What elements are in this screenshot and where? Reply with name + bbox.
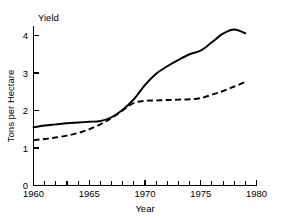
- x-tick-label-1980: 1980: [246, 188, 267, 199]
- y-tick-label-2: 2: [23, 105, 28, 116]
- yield-line-chart: 0 1 2 3 4: [0, 0, 281, 221]
- x-tick-label-1965: 1965: [79, 188, 100, 199]
- y-tick-label-4: 4: [23, 30, 28, 41]
- yield-corner-label: Yield: [38, 12, 59, 23]
- y-axis-title: Tons per Hectare: [5, 70, 16, 142]
- y-axis-ticks: [34, 36, 40, 186]
- x-axis-title: Year: [135, 203, 154, 214]
- x-tick-label-1960: 1960: [23, 188, 44, 199]
- y-tick-label-3: 3: [23, 68, 28, 79]
- series-solid-curve: [34, 29, 246, 127]
- x-tick-label-1970: 1970: [134, 188, 155, 199]
- x-tick-label-1975: 1975: [190, 188, 211, 199]
- y-tick-label-1: 1: [23, 143, 28, 154]
- chart-container: 0 1 2 3 4: [0, 0, 281, 221]
